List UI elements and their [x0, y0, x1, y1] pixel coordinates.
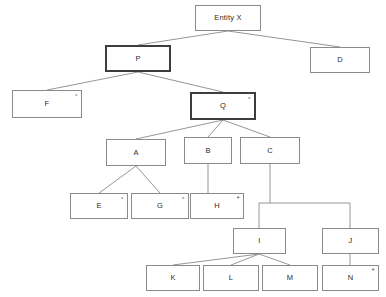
node-label-l: L — [229, 274, 233, 282]
node-label-c: C — [267, 147, 273, 155]
node-label-entity-x: Entity X — [214, 14, 241, 22]
edge-q-c — [223, 120, 270, 137]
node-p[interactable]: P — [105, 45, 171, 72]
node-j[interactable]: J — [322, 228, 379, 254]
edge-i-m — [259, 254, 290, 265]
node-label-a: A — [133, 149, 138, 157]
node-g[interactable]: G ° — [131, 193, 189, 219]
node-marker-asterisk-n: * — [372, 268, 375, 274]
edge-a-g — [136, 166, 160, 193]
node-marker-degree-g: ° — [182, 196, 184, 202]
node-label-i: I — [258, 237, 260, 245]
node-label-j: J — [349, 237, 353, 245]
node-l[interactable]: L — [203, 265, 259, 291]
node-marker-asterisk-h: * — [237, 196, 240, 202]
edge-p-q — [138, 72, 223, 92]
node-marker-degree-e: ° — [121, 196, 123, 202]
node-label-q: Q — [220, 102, 226, 110]
node-i[interactable]: I — [233, 228, 286, 254]
node-label-k: K — [170, 274, 175, 282]
node-label-e: E — [96, 202, 101, 210]
node-label-n: N — [348, 274, 354, 282]
node-label-b: B — [205, 147, 210, 155]
node-c[interactable]: C — [240, 137, 300, 164]
node-label-g: G — [157, 202, 163, 210]
node-e[interactable]: E ° — [70, 193, 128, 219]
node-label-p: P — [135, 55, 140, 63]
node-label-d: D — [337, 56, 343, 64]
node-label-m: M — [287, 274, 293, 282]
edge-entityx-p — [138, 31, 228, 45]
node-marker-degree-f: ° — [75, 93, 77, 99]
node-k[interactable]: K — [146, 265, 200, 291]
edge-q-b — [208, 120, 223, 137]
node-marker-degree-q: ° — [248, 96, 250, 102]
node-h[interactable]: H * — [190, 193, 244, 219]
node-label-f: F — [45, 100, 50, 108]
node-q[interactable]: Q ° — [190, 92, 256, 120]
node-n[interactable]: N * — [322, 265, 379, 291]
node-m[interactable]: M — [262, 265, 318, 291]
edge-entityx-d — [228, 31, 340, 47]
entity-hierarchy-diagram: Entity X P D F ° Q ° A B C E ° G ° H * I… — [0, 0, 386, 297]
node-label-h: H — [214, 202, 220, 210]
edge-p-f — [47, 72, 138, 90]
edge-i-k — [173, 254, 259, 265]
node-b[interactable]: B — [184, 137, 232, 164]
node-entity-x[interactable]: Entity X — [195, 5, 261, 31]
node-d[interactable]: D — [310, 47, 370, 73]
edge-a-e — [99, 166, 136, 193]
node-a[interactable]: A — [106, 139, 166, 166]
edge-i-l — [231, 254, 259, 265]
node-f[interactable]: F ° — [12, 90, 82, 118]
